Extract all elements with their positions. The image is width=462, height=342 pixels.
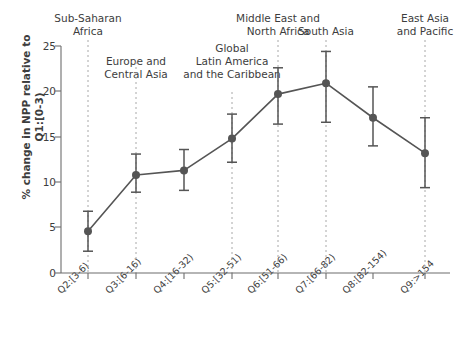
axes: [55, 46, 450, 279]
series-line: [88, 83, 425, 231]
data-point: [84, 227, 92, 235]
data-point: [274, 90, 282, 98]
annotation-guide-lines: [88, 40, 425, 273]
data-point: [421, 149, 429, 157]
data-point: [228, 135, 236, 143]
data-point: [322, 79, 330, 87]
data-point: [369, 114, 377, 122]
data-point: [132, 171, 140, 179]
error-bars: [83, 51, 430, 251]
npp-change-chart: % change in NPP relative to Q1:[0-3) 25 …: [0, 0, 462, 342]
data-point: [180, 166, 188, 174]
chart-plot-area: [0, 0, 462, 342]
